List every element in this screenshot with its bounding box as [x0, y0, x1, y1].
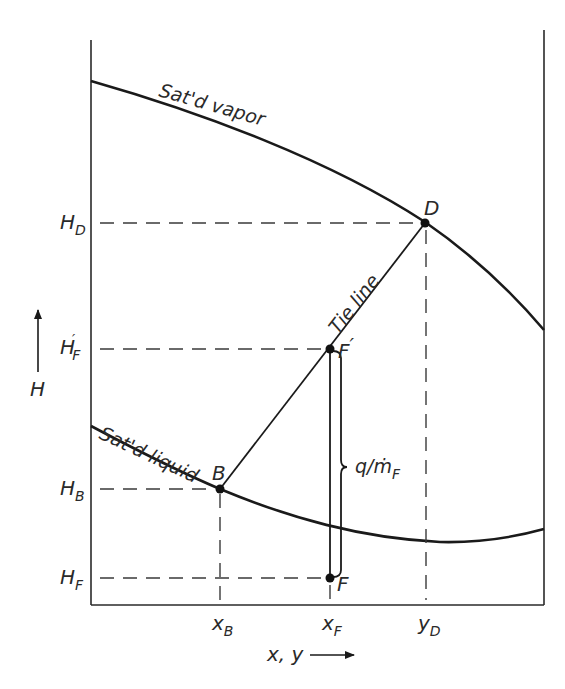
- h-d-tick-label: HD: [60, 210, 86, 238]
- state-points: [216, 219, 430, 583]
- heat-per-feed-label: q/ṁF: [355, 455, 401, 482]
- heat-brace: [333, 351, 347, 577]
- h-b-tick-label: HB: [60, 476, 85, 504]
- h-axis-label: H: [30, 377, 45, 401]
- saturated-vapor-curve: [91, 81, 544, 330]
- saturated-liquid-curve: [91, 426, 544, 542]
- point-d-label: D: [424, 196, 439, 220]
- point-f: [326, 574, 335, 583]
- x-f-tick-label: xF: [321, 611, 343, 639]
- tie-line-label: Tie line: [324, 270, 384, 338]
- saturated-vapor-label: Sat'd vapor: [157, 79, 269, 130]
- h-f-tick-label: HF: [60, 565, 84, 593]
- enthalpy-composition-diagram: Sat'd vapor Sat'd liquid Tie line q/ṁF D…: [0, 0, 565, 689]
- plot-frame: [91, 30, 544, 605]
- h-f-prime-tick-label: H′F: [60, 331, 81, 363]
- point-f-label: F: [337, 572, 349, 596]
- point-b: [216, 485, 225, 494]
- tie-line: [220, 223, 425, 489]
- x-b-tick-label: xB: [211, 611, 233, 639]
- saturated-liquid-label: Sat'd liquid: [96, 422, 203, 487]
- point-f-prime: [326, 345, 335, 354]
- y-d-tick-label: yD: [417, 611, 441, 639]
- xy-axis-label: x, y: [266, 642, 305, 666]
- point-b-label: B: [212, 461, 226, 485]
